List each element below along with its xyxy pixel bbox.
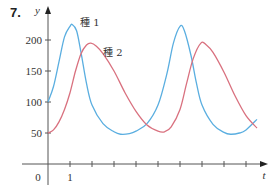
- y-tick-label: 150: [26, 65, 43, 77]
- x-axis-arrow-icon: [260, 161, 268, 167]
- axes: 5010015020001yt: [22, 4, 268, 185]
- y-tick-label: 200: [26, 34, 43, 46]
- predator-prey-chart: 5010015020001yt 種 1種 2: [0, 0, 275, 188]
- y-tick-label: 50: [31, 127, 43, 139]
- species-2-label: 種 2: [103, 46, 123, 58]
- y-tick-label: 100: [26, 96, 43, 108]
- curves: [48, 24, 257, 134]
- y-axis-arrow-icon: [45, 6, 51, 14]
- x-axis-label: t: [262, 169, 266, 181]
- species-2-curve: [48, 42, 257, 133]
- y-axis-label: y: [34, 4, 40, 16]
- origin-label: 0: [35, 171, 41, 183]
- species-1-label: 種 1: [80, 16, 100, 28]
- species-1-curve: [48, 24, 257, 134]
- x-tick-label: 1: [67, 171, 73, 183]
